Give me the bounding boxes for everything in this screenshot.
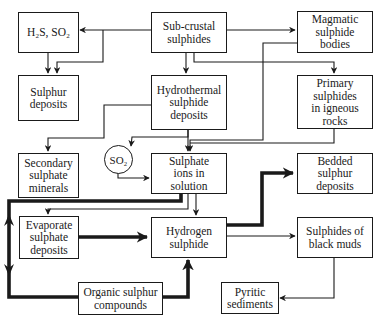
node-label: Secondary (24, 157, 73, 170)
node-label: sulphate (29, 169, 67, 182)
node-label: sediments (227, 298, 273, 311)
node-sulphur-deposits: Sulphur deposits (18, 75, 79, 121)
edge-organic-to-hydrogen (162, 260, 188, 297)
node-label: Evaporate (26, 219, 73, 232)
node-label: sulphide (170, 96, 209, 109)
node-label: black muds (309, 238, 362, 251)
node-evaporate-sulphate-deposits: Evaporate sulphate deposits (19, 216, 79, 259)
node-label: Pyritic (235, 286, 266, 299)
node-label: Hydrothermal (157, 84, 222, 97)
node-label: sulphate (30, 231, 68, 244)
node-label: rocks (323, 115, 348, 128)
node-label: deposits (30, 98, 68, 111)
node-label: Magmatic (312, 13, 359, 26)
node-secondary-sulphate-minerals: Secondary sulphate minerals (18, 153, 79, 198)
node-label: bodies (320, 38, 350, 51)
node-organic-sulphur-compounds: Organic sulphur compounds (78, 282, 163, 315)
node-label: sulphur (318, 167, 353, 180)
node-label: Sub-crustal (163, 20, 215, 33)
node-label: ions in (174, 167, 205, 180)
node-label: SO₂ (110, 154, 128, 166)
node-label: H₂S, SO₂ (27, 26, 70, 39)
node-so2-circle: SO₂ (104, 145, 133, 174)
node-pyritic-sediments: Pyritic sediments (221, 282, 279, 314)
node-label: Sulphur (30, 86, 66, 99)
node-label: Sulphides of (306, 225, 364, 238)
node-label: Hydrogen (166, 225, 212, 238)
node-hydrothermal-sulphide-deposits: Hydrothermal sulphide deposits (151, 75, 227, 130)
node-h2s-so2: H₂S, SO₂ (18, 12, 79, 53)
edge-black-muds-to-pyritic (280, 257, 334, 298)
node-label: deposits (30, 244, 68, 257)
node-label: solution (170, 180, 207, 193)
edge-hydrothermal-to-so2 (131, 130, 188, 146)
node-sub-crustal-sulphides: Sub-crustal sulphides (151, 12, 227, 53)
node-label: deposits (316, 180, 354, 193)
node-label: compounds (94, 299, 147, 312)
node-primary-sulphides: Primary sulphides in igneous rocks (297, 75, 373, 129)
node-sulphides-of-black-muds: Sulphides of black muds (297, 217, 373, 258)
node-label: sulphides (313, 90, 356, 103)
edge-primary-to-sulphate (190, 128, 334, 143)
node-magmatic-sulphide-bodies: Magmatic sulphide bodies (297, 11, 373, 53)
node-label: Organic sulphur (83, 286, 157, 299)
node-label: deposits (170, 109, 208, 122)
node-label: sulphide (316, 26, 355, 39)
node-label: in igneous (311, 102, 359, 115)
node-bedded-sulphur-deposits: Bedded sulphur deposits (297, 153, 373, 194)
node-label: Bedded (317, 155, 352, 168)
node-label: minerals (29, 182, 69, 195)
node-label: sulphide (170, 238, 209, 251)
node-label: Sulphate (169, 155, 209, 168)
node-label: Primary (316, 77, 353, 90)
node-hydrogen-sulphide: Hydrogen sulphide (151, 217, 227, 258)
edge-subcrustal-to-primary (194, 52, 334, 73)
edge-hydrogen-to-bedded (226, 173, 293, 225)
node-label: sulphides (167, 33, 210, 46)
node-sulphate-ions-in-solution: Sulphate ions in solution (151, 153, 227, 194)
